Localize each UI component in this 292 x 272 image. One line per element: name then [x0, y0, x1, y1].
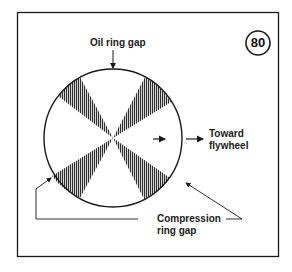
toward-flywheel-label-line2: flywheel — [209, 140, 248, 152]
compression-ring-gap-label-line1: Compression — [157, 213, 221, 225]
wedge-upper-right — [113, 77, 171, 138]
wedge-lower-left — [52, 138, 113, 198]
wedge-upper-left — [58, 77, 113, 138]
compression-ring-gap-label-line2: ring gap — [157, 225, 196, 237]
diagram-canvas: Oil ring gap 80 Toward flywheel Compress… — [0, 0, 292, 272]
toward-flywheel-label-line1: Toward — [209, 128, 244, 140]
oil-ring-gap-label: Oil ring gap — [90, 37, 146, 49]
ring-gap-wedges — [52, 77, 171, 199]
figure-number: 80 — [246, 35, 270, 50]
compression-arrow-left — [36, 178, 51, 189]
compression-leader-left — [36, 189, 138, 219]
wedge-lower-right — [113, 138, 170, 199]
